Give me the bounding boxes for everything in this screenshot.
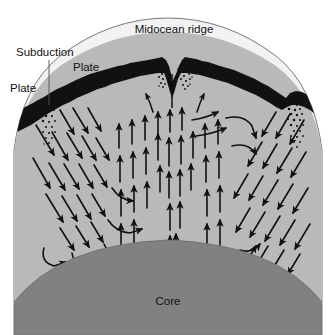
plate-label-right: Plate <box>73 61 99 73</box>
plate-label-left: Plate <box>10 82 36 94</box>
earth-body: Core <box>14 18 322 335</box>
midocean-ridge-label: Midocean ridge <box>135 23 214 35</box>
diagram-page: Core Midocean ridge Subduction Plate Pla… <box>0 0 336 335</box>
earth-convection-diagram: Core Midocean ridge Subduction Plate Pla… <box>0 0 336 335</box>
core-label: Core <box>156 295 181 307</box>
subduction-label: Subduction <box>16 46 74 58</box>
